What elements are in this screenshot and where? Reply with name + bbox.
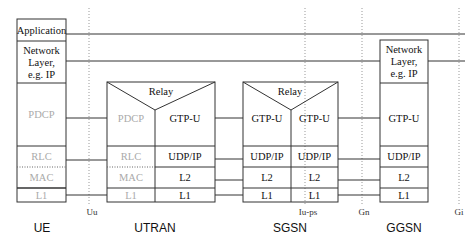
sgsn-udp-right-label: UDP/IP — [298, 151, 331, 162]
ggsn-gtp-label: GTP-U — [389, 113, 420, 124]
sgsn-relay-label: Relay — [278, 86, 303, 97]
utran-udp-label: UDP/IP — [168, 151, 201, 162]
protocol-stack-diagram: Application Network Layer, e.g. IP PDCP … — [0, 0, 465, 243]
sgsn-gtp-right-label: GTP-U — [299, 113, 330, 124]
ue-network-label: Network — [23, 45, 60, 56]
ggsn-l1-label: L1 — [398, 190, 410, 201]
utran-l2-label: L2 — [179, 172, 191, 183]
utran-l1-right-label: L1 — [179, 190, 191, 201]
ggsn-network-label: Network — [386, 44, 423, 55]
ggsn-network-label-2: Layer, — [391, 56, 418, 67]
utran-l1-label: L1 — [125, 190, 137, 201]
utran-pdcp-label: PDCP — [118, 113, 144, 124]
ue-node-label: UE — [34, 221, 51, 235]
utran-node-label: UTRAN — [134, 221, 175, 235]
ue-application-label: Application — [17, 25, 67, 36]
ue-mac-label: MAC — [30, 172, 54, 183]
utran-gtp-label: GTP-U — [170, 113, 201, 124]
ue-l1-label: L1 — [36, 190, 48, 201]
ue-pdcp-label: PDCP — [28, 109, 54, 120]
utran-mac-label: MAC — [119, 172, 143, 183]
uu-interface-label: Uu — [87, 207, 98, 217]
sgsn-l1-left-label: L1 — [261, 190, 273, 201]
sgsn-l2-right-label: L2 — [309, 172, 321, 183]
sgsn-node-label: SGSN — [273, 221, 307, 235]
sgsn-udp-left-label: UDP/IP — [250, 151, 283, 162]
gn-interface-label: Gn — [359, 207, 370, 217]
ggsn-node-label: GGSN — [386, 221, 421, 235]
sgsn-l1-right-label: L1 — [309, 190, 321, 201]
ggsn-l2-label: L2 — [398, 172, 410, 183]
ggsn-udp-label: UDP/IP — [387, 151, 420, 162]
gi-interface-label: Gi — [455, 207, 464, 217]
utran-rlc-label: RLC — [121, 151, 141, 162]
ue-network-label-3: e.g. IP — [28, 69, 55, 80]
sgsn-gtp-left-label: GTP-U — [252, 113, 283, 124]
iu-ps-interface-label: Iu-ps — [299, 207, 318, 217]
utran-stack — [107, 82, 215, 202]
sgsn-l2-left-label: L2 — [261, 172, 273, 183]
ggsn-network-label-3: e.g. IP — [390, 68, 417, 79]
ue-network-label-2: Layer, — [28, 57, 55, 68]
utran-relay-label: Relay — [149, 86, 174, 97]
ue-rlc-label: RLC — [31, 151, 51, 162]
